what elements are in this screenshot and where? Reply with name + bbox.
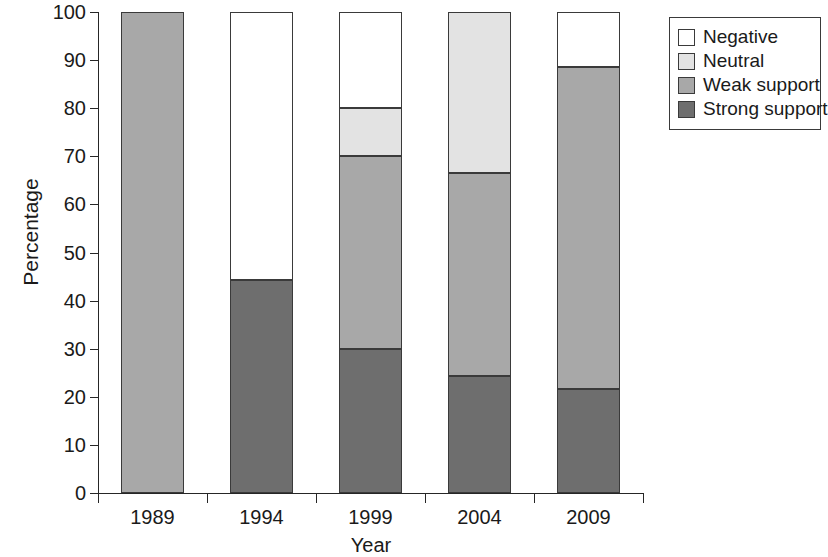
bar-2009[interactable] [557,12,620,493]
y-tick-mark [90,156,98,157]
x-tick-label: 2009 [529,506,649,529]
legend-item-label: Negative [703,26,778,48]
y-tick-mark [90,397,98,398]
chart-legend: NegativeNeutralWeak supportStrong suppor… [669,17,821,130]
legend-item-label: Strong support [703,98,828,120]
x-tick-mark [643,494,644,503]
y-tick-mark [90,301,98,302]
bar-1994[interactable] [230,12,293,493]
y-tick-label: 10 [44,435,86,455]
bar-1999[interactable] [339,12,402,493]
x-tick-mark [98,494,99,503]
bar-segment-1999-neutral[interactable] [339,108,402,156]
y-tick-mark [90,253,98,254]
bar-segment-2004-strong-support[interactable] [448,376,511,493]
y-tick-label: 40 [44,291,86,311]
x-tick-label: 1989 [93,506,213,529]
y-tick-label: 90 [44,50,86,70]
x-axis-line [98,493,644,494]
legend-item-label: Weak support [703,74,820,96]
bar-segment-2009-strong-support[interactable] [557,389,620,493]
x-tick-label: 1994 [202,506,322,529]
x-tick-mark [534,494,535,503]
bar-segment-2009-negative[interactable] [557,12,620,67]
legend-swatch-icon [678,53,695,70]
legend-item-label: Neutral [703,50,764,72]
bar-segment-2009-weak-support[interactable] [557,67,620,389]
x-tick-mark [425,494,426,503]
y-tick-mark [90,493,98,494]
x-tick-mark [207,494,208,503]
x-axis-title: Year [98,534,644,557]
bar-segment-1989-weak-support[interactable] [121,12,184,493]
y-tick-label: 60 [44,194,86,214]
legend-swatch-icon [678,101,695,118]
y-tick-label: 0 [44,483,86,503]
x-tick-label: 2004 [420,506,540,529]
bar-segment-1999-negative[interactable] [339,12,402,108]
y-tick-mark [90,108,98,109]
bar-segment-2004-weak-support[interactable] [448,173,511,376]
y-tick-label: 70 [44,146,86,166]
x-tick-mark [316,494,317,503]
y-tick-label: 30 [44,339,86,359]
legend-item-weak-support[interactable]: Weak support [678,73,812,97]
y-tick-mark [90,60,98,61]
x-tick-label: 1999 [311,506,431,529]
legend-swatch-icon [678,29,695,46]
y-tick-mark [90,349,98,350]
bar-segment-2004-neutral[interactable] [448,12,511,173]
legend-item-neutral[interactable]: Neutral [678,49,812,73]
y-tick-label: 50 [44,243,86,263]
y-tick-label: 80 [44,98,86,118]
bar-segment-1999-weak-support[interactable] [339,156,402,348]
bar-2004[interactable] [448,12,511,493]
bar-segment-1994-negative[interactable] [230,12,293,280]
y-tick-mark [90,204,98,205]
legend-swatch-icon [678,77,695,94]
y-tick-mark [90,12,98,13]
legend-item-negative[interactable]: Negative [678,25,812,49]
plot-area [98,12,643,493]
legend-item-strong-support[interactable]: Strong support [678,97,812,121]
y-axis-title: Percentage [19,117,43,347]
bar-1989[interactable] [121,12,184,493]
y-tick-mark [90,445,98,446]
bar-segment-1999-strong-support[interactable] [339,349,402,493]
bar-segment-1994-strong-support[interactable] [230,280,293,493]
y-tick-label: 100 [44,2,86,22]
y-tick-label: 20 [44,387,86,407]
